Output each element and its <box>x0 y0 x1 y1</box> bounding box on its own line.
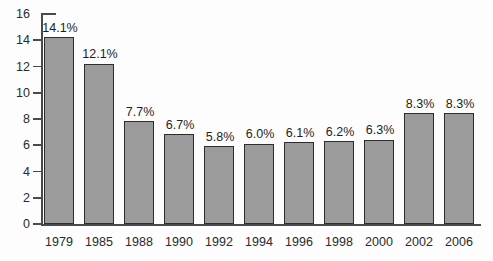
bar <box>124 121 154 224</box>
y-axis-tick <box>33 197 42 199</box>
x-axis-baseline <box>41 224 481 226</box>
y-axis-tick <box>33 39 42 41</box>
bar-chart: 024681012141614.1%197912.1%19857.7%19886… <box>0 0 493 261</box>
y-axis-label: 4 <box>2 166 30 179</box>
y-axis-label: 16 <box>2 8 30 21</box>
y-axis-label: 0 <box>2 218 30 231</box>
bar <box>44 37 74 224</box>
bar-value-label: 12.1% <box>77 48 123 61</box>
y-axis-tick <box>33 92 42 94</box>
y-axis-label: 8 <box>2 113 30 126</box>
bar-value-label: 7.7% <box>117 106 163 119</box>
bar <box>444 113 474 224</box>
bar <box>364 140 394 224</box>
x-axis-label: 2006 <box>436 236 482 249</box>
bar-value-label: 6.3% <box>357 124 403 137</box>
y-axis-label: 12 <box>2 61 30 74</box>
bar <box>244 144 274 224</box>
bar <box>404 113 434 224</box>
bar <box>204 146 234 224</box>
plot-area: 024681012141614.1%197912.1%19857.7%19886… <box>0 0 493 261</box>
y-axis-tick <box>33 66 42 68</box>
bar-value-label: 6.7% <box>157 119 203 132</box>
y-axis-label: 10 <box>2 87 30 100</box>
bar <box>164 134 194 224</box>
y-axis-tick <box>33 171 42 173</box>
y-axis-tick <box>33 118 42 120</box>
y-axis-tick <box>41 13 56 15</box>
bar-value-label: 14.1% <box>37 22 83 35</box>
bar <box>84 64 114 224</box>
y-axis-tick <box>33 144 42 146</box>
bar-value-label: 8.3% <box>437 98 483 111</box>
bar <box>284 142 314 224</box>
y-axis-tick <box>33 223 42 225</box>
y-axis-label: 6 <box>2 139 30 152</box>
bar <box>324 141 354 224</box>
y-axis-label: 14 <box>2 34 30 47</box>
y-axis-label: 2 <box>2 192 30 205</box>
